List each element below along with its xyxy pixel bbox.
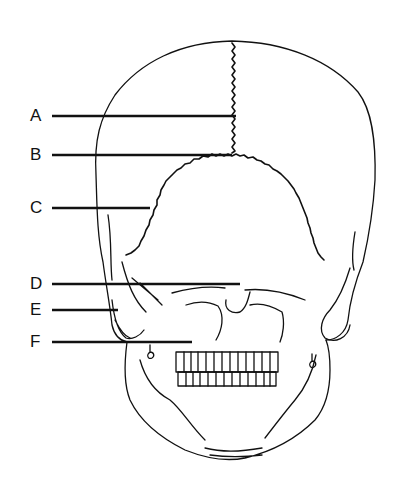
lambdoid-suture (126, 154, 324, 260)
label-c: C (30, 199, 42, 216)
mastoid-right (321, 232, 355, 340)
label-d: D (30, 275, 42, 292)
occipital-base (172, 287, 305, 342)
lower-teeth (178, 372, 276, 386)
label-f: F (30, 333, 40, 350)
mandible (125, 340, 330, 460)
mastoid-left (108, 215, 162, 339)
label-b: B (30, 146, 41, 163)
cranium-outline (96, 41, 376, 342)
sagittal-suture (232, 43, 235, 153)
label-e: E (30, 301, 41, 318)
foramen-left (148, 345, 154, 358)
upper-teeth (176, 352, 278, 372)
label-a: A (30, 107, 41, 124)
skull-diagram (0, 0, 396, 499)
